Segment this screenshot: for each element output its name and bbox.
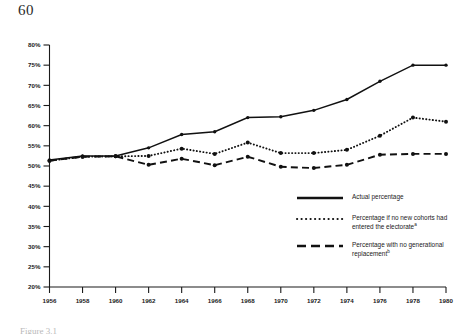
y-tick-label: 45% [28,182,41,189]
data-point-marker [279,165,283,169]
x-tick-label: 1956 [43,297,57,304]
y-tick-label: 55% [28,142,41,149]
y-tick-label: 40% [28,203,41,210]
data-point-marker [444,152,448,156]
data-point-marker [378,153,382,157]
y-tick-label: 80% [28,41,41,48]
data-point-marker [180,133,183,136]
data-point-marker [279,115,282,118]
x-tick-label: 1976 [373,297,387,304]
data-point-marker [147,163,151,167]
legend-item-solid: Actual percentage [296,192,458,204]
x-tick-label: 1958 [76,297,90,304]
data-point-marker [312,151,316,155]
x-tick-label: 1960 [109,297,123,304]
data-point-marker [345,148,349,152]
x-axis: 1956195819601962196419661968197019721974… [43,287,454,304]
y-tick-label: 65% [28,102,41,109]
data-point-marker [213,152,217,156]
data-point-marker [147,154,151,158]
legend-footnote-marker: b [387,249,390,254]
data-point-marker [444,120,448,124]
data-point-marker [312,166,316,170]
data-point-marker [213,163,217,167]
x-tick-label: 1962 [142,297,156,304]
legend-item-dashed: Percentage with no generational replacem… [296,240,458,258]
y-axis: 80%75%70%65%60%55%50%45%40%35%30%25%20% [28,41,49,290]
legend-footnote-marker: a [414,221,417,226]
data-point-marker [246,155,250,159]
data-point-marker [444,63,447,66]
y-tick-label: 35% [28,223,41,230]
legend-label: Percentage if no new cohorts had entered… [352,213,458,231]
y-tick-label: 20% [28,283,41,290]
data-point-marker [378,80,381,83]
x-tick-label: 1974 [340,297,354,304]
data-point-marker [378,134,382,138]
data-point-marker [312,109,315,112]
chart-series-group [48,63,449,170]
data-point-marker [411,63,414,66]
y-tick-label: 25% [28,263,41,270]
data-point-marker [411,152,415,156]
y-tick-label: 70% [28,82,41,89]
chart-legend: Actual percentagePercentage if no new co… [296,192,458,267]
y-tick-label: 50% [28,162,41,169]
series-line-dotted [50,118,447,161]
legend-swatch-solid-icon [296,192,344,204]
data-point-marker [345,163,349,167]
x-tick-label: 1968 [241,297,255,304]
data-point-marker [279,151,283,155]
x-tick-label: 1978 [406,297,420,304]
data-point-marker [48,159,52,163]
y-tick-label: 60% [28,122,41,129]
legend-swatch-dashed-icon [296,240,344,252]
x-tick-label: 1970 [274,297,288,304]
data-point-marker [246,141,250,145]
data-point-marker [180,157,184,161]
x-tick-label: 1966 [208,297,222,304]
legend-swatch-dotted-icon [296,213,344,225]
legend-label: Actual percentage [352,192,404,202]
data-point-marker [147,146,150,149]
x-tick-label: 1964 [175,297,189,304]
data-point-marker [114,154,118,158]
series-line-solid [50,65,447,160]
legend-label: Percentage with no generational replacem… [352,240,458,258]
x-tick-label: 1972 [307,297,321,304]
legend-item-dotted: Percentage if no new cohorts had entered… [296,213,458,231]
data-point-marker [246,116,249,119]
y-tick-label: 75% [28,61,41,68]
data-point-marker [411,116,415,120]
data-point-marker [81,155,85,159]
data-point-marker [345,98,348,101]
data-point-marker [180,147,184,151]
figure-caption: Figure 3.1 [20,326,57,334]
y-tick-label: 30% [28,243,41,250]
x-tick-label: 1980 [439,297,453,304]
data-point-marker [213,130,216,133]
